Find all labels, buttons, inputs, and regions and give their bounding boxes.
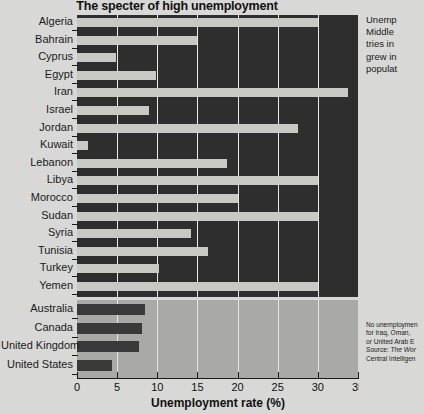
footnote-line: Source: The Wor bbox=[366, 346, 424, 354]
category-label: Lebanon bbox=[1, 156, 77, 168]
bar bbox=[77, 53, 116, 62]
footnote-line: No unemploymen bbox=[366, 321, 424, 329]
category-tickmark bbox=[72, 294, 78, 295]
category-label: Syria bbox=[1, 226, 77, 238]
bar bbox=[77, 106, 149, 115]
unemployment-bar-chart-figure: The specter of high unemployment Algeria… bbox=[0, 0, 424, 414]
bar bbox=[77, 304, 145, 315]
x-axis-tick-label: 5 bbox=[114, 381, 120, 393]
side-note-line: tries in bbox=[366, 38, 424, 50]
bar bbox=[77, 247, 208, 256]
category-label: Israel bbox=[1, 103, 77, 115]
bar bbox=[77, 176, 318, 185]
category-tickmark bbox=[72, 259, 78, 260]
category-tickmark bbox=[72, 30, 78, 31]
category-label: Morocco bbox=[1, 191, 77, 203]
category-tickmark bbox=[72, 355, 78, 356]
gridline bbox=[318, 15, 319, 297]
category-tickmark bbox=[72, 136, 78, 137]
category-tickmark bbox=[72, 83, 78, 84]
category-label: Australia bbox=[1, 302, 77, 314]
category-label: Kuwait bbox=[1, 138, 77, 150]
footnote-line: for Iraq, Oman, bbox=[366, 329, 424, 337]
category-tickmark bbox=[72, 318, 78, 319]
gridline bbox=[278, 15, 279, 297]
bar bbox=[77, 36, 197, 45]
category-label: Jordan bbox=[1, 121, 77, 133]
category-label: Libya bbox=[1, 173, 77, 185]
category-label: Turkey bbox=[1, 261, 77, 273]
category-label: Cyprus bbox=[1, 50, 77, 62]
x-axis-tick-label: 0 bbox=[74, 381, 80, 393]
category-label: Canada bbox=[1, 321, 77, 333]
x-axis-tick-label: 10 bbox=[151, 381, 163, 393]
footnote-line: Central Intelligen bbox=[366, 355, 424, 363]
category-tickmark bbox=[72, 118, 78, 119]
bar bbox=[77, 159, 227, 168]
gridline bbox=[238, 15, 239, 297]
x-axis-line bbox=[77, 378, 359, 379]
gridline bbox=[238, 300, 239, 378]
bar bbox=[77, 360, 112, 371]
plot-area-middle-east bbox=[77, 15, 358, 297]
side-note-line: Unemp bbox=[366, 14, 424, 26]
side-note-line: grew in bbox=[366, 51, 424, 63]
x-axis-tick bbox=[157, 372, 158, 379]
bar bbox=[77, 124, 298, 133]
category-tickmark bbox=[72, 188, 78, 189]
category-label: Iran bbox=[1, 85, 77, 97]
category-tickmark bbox=[72, 48, 78, 49]
category-tickmark bbox=[72, 65, 78, 66]
bar bbox=[77, 341, 139, 352]
category-label: Sudan bbox=[1, 209, 77, 221]
category-tickmark bbox=[72, 171, 78, 172]
x-axis-tick bbox=[117, 372, 118, 379]
category-label: United Kingdom bbox=[1, 339, 77, 351]
bar bbox=[77, 71, 156, 80]
bar bbox=[77, 88, 348, 97]
category-label: Bahrain bbox=[1, 33, 77, 45]
gridline bbox=[157, 300, 158, 378]
gridline bbox=[197, 300, 198, 378]
bar bbox=[77, 323, 142, 334]
category-tickmark bbox=[72, 224, 78, 225]
x-axis-tick bbox=[278, 372, 279, 379]
footnote-line: or United Arab E bbox=[366, 338, 424, 346]
category-label: Tunisia bbox=[1, 244, 77, 256]
category-label: Yemen bbox=[1, 279, 77, 291]
category-labels-middle-east: AlgeriaBahrainCyprusEgyptIranIsraelJorda… bbox=[0, 15, 77, 297]
bar bbox=[77, 282, 318, 291]
footnote-source-text: No unemploymenfor Iraq, Oman, or United … bbox=[366, 321, 424, 363]
category-tickmark bbox=[72, 153, 78, 154]
chart-title: The specter of high unemployment bbox=[52, 0, 302, 13]
x-axis-tick-label: 30 bbox=[312, 381, 324, 393]
side-note-line: populat bbox=[366, 63, 424, 75]
x-axis-tick bbox=[238, 372, 239, 379]
category-tickmark bbox=[72, 100, 78, 101]
x-axis-label: Unemployment rate (%) bbox=[77, 396, 359, 410]
category-labels-comparison: AustraliaCanadaUnited KingdomUnited Stat… bbox=[0, 300, 77, 378]
category-label: Egypt bbox=[1, 68, 77, 80]
category-tickmark bbox=[72, 337, 78, 338]
x-axis-tick bbox=[77, 372, 78, 379]
bar bbox=[77, 212, 318, 221]
column-gutter bbox=[359, 0, 365, 414]
bar bbox=[77, 264, 159, 273]
plot-area-comparison bbox=[77, 300, 358, 378]
category-tickmark bbox=[72, 276, 78, 277]
bar bbox=[77, 18, 318, 27]
category-tickmark bbox=[72, 241, 78, 242]
category-label: United States bbox=[1, 358, 77, 370]
x-axis-tick bbox=[197, 372, 198, 379]
x-axis-tick-label: 20 bbox=[231, 381, 243, 393]
x-axis-tick-label: 15 bbox=[191, 381, 203, 393]
bar bbox=[77, 229, 191, 238]
gridline bbox=[318, 300, 319, 378]
x-axis-tick bbox=[318, 372, 319, 379]
category-label: Algeria bbox=[1, 15, 77, 27]
gridline bbox=[278, 300, 279, 378]
side-note-line: Middle bbox=[366, 26, 424, 38]
bar bbox=[77, 141, 88, 150]
bar bbox=[77, 194, 238, 203]
side-note-text: UnempMiddletries ingrew inpopulat bbox=[366, 14, 424, 75]
